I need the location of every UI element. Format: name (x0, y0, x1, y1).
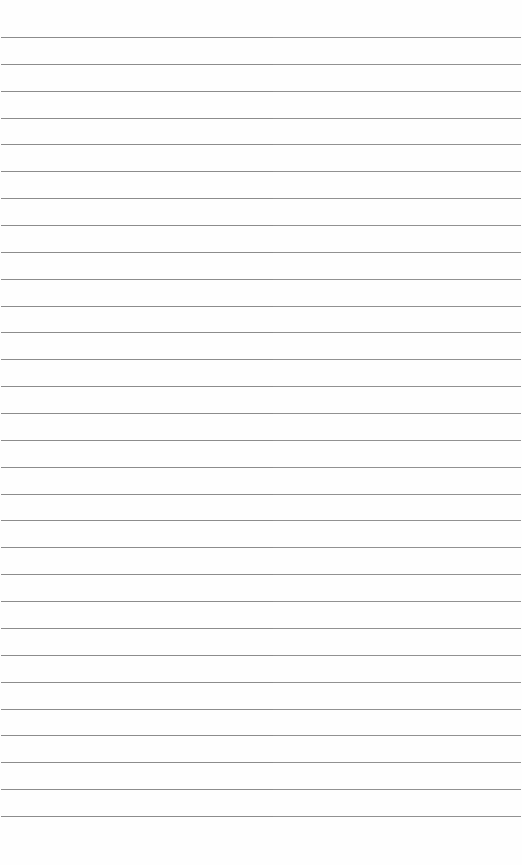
ruled-line-left-segment (1, 655, 273, 656)
ruled-line (1, 520, 521, 521)
ruled-line (1, 37, 521, 38)
ruled-line-left-segment (1, 359, 273, 360)
ruled-line (1, 628, 521, 629)
ruled-line (1, 735, 521, 736)
ruled-line (1, 91, 521, 92)
ruled-line-left-segment (1, 118, 273, 119)
ruled-line (1, 709, 521, 710)
ruled-line-left-segment (1, 252, 273, 253)
ruled-line-left-segment (1, 413, 273, 414)
ruled-line (1, 655, 521, 656)
ruled-line (1, 574, 521, 575)
ruled-line-left-segment (1, 762, 273, 763)
ruled-line-left-segment (1, 386, 273, 387)
ruled-line (1, 547, 521, 548)
ruled-paper-page (0, 0, 522, 865)
ruled-line-right-segment (273, 440, 521, 441)
ruled-line (1, 306, 521, 307)
ruled-line-right-segment (273, 386, 521, 387)
ruled-line-left-segment (1, 547, 273, 548)
ruled-line-right-segment (273, 64, 521, 65)
ruled-line-right-segment (273, 37, 521, 38)
ruled-line (1, 762, 521, 763)
ruled-line-right-segment (273, 144, 521, 145)
ruled-line-left-segment (1, 735, 273, 736)
ruled-line-left-segment (1, 332, 273, 333)
ruled-line (1, 225, 521, 226)
ruled-line (1, 440, 521, 441)
ruled-line-right-segment (273, 762, 521, 763)
ruled-line-right-segment (273, 332, 521, 333)
ruled-line (1, 816, 521, 817)
ruled-line (1, 467, 521, 468)
ruled-line (1, 332, 521, 333)
ruled-line (1, 279, 521, 280)
ruled-line-left-segment (1, 816, 273, 817)
ruled-line-right-segment (273, 467, 521, 468)
ruled-line-right-segment (273, 816, 521, 817)
ruled-line-right-segment (273, 735, 521, 736)
ruled-line-right-segment (273, 413, 521, 414)
ruled-line-right-segment (273, 171, 521, 172)
ruled-line-left-segment (1, 709, 273, 710)
ruled-line-left-segment (1, 225, 273, 226)
ruled-line-left-segment (1, 601, 273, 602)
ruled-line (1, 144, 521, 145)
ruled-line (1, 789, 521, 790)
ruled-line-left-segment (1, 37, 273, 38)
ruled-line-left-segment (1, 440, 273, 441)
ruled-line-right-segment (273, 789, 521, 790)
ruled-line (1, 413, 521, 414)
ruled-line-right-segment (273, 682, 521, 683)
ruled-line-right-segment (273, 225, 521, 226)
ruled-line-right-segment (273, 494, 521, 495)
ruled-line-right-segment (273, 520, 521, 521)
ruled-line (1, 386, 521, 387)
ruled-line (1, 601, 521, 602)
ruled-line-left-segment (1, 306, 273, 307)
ruled-line (1, 494, 521, 495)
ruled-line-left-segment (1, 628, 273, 629)
ruled-line-left-segment (1, 520, 273, 521)
ruled-line-left-segment (1, 467, 273, 468)
ruled-line (1, 171, 521, 172)
ruled-line-right-segment (273, 118, 521, 119)
ruled-line-left-segment (1, 171, 273, 172)
ruled-line-left-segment (1, 144, 273, 145)
ruled-line-left-segment (1, 198, 273, 199)
ruled-line-right-segment (273, 91, 521, 92)
ruled-line-right-segment (273, 252, 521, 253)
ruled-line-left-segment (1, 789, 273, 790)
ruled-line (1, 682, 521, 683)
ruled-line-right-segment (273, 574, 521, 575)
ruled-line-right-segment (273, 547, 521, 548)
ruled-line-right-segment (273, 279, 521, 280)
ruled-line (1, 252, 521, 253)
ruled-line (1, 64, 521, 65)
ruled-line (1, 118, 521, 119)
ruled-line-right-segment (273, 628, 521, 629)
ruled-line-right-segment (273, 306, 521, 307)
ruled-line-right-segment (273, 359, 521, 360)
ruled-line-right-segment (273, 198, 521, 199)
ruled-line (1, 359, 521, 360)
ruled-line (1, 198, 521, 199)
ruled-line-left-segment (1, 494, 273, 495)
ruled-line-left-segment (1, 682, 273, 683)
ruled-line-left-segment (1, 279, 273, 280)
ruled-line-right-segment (273, 655, 521, 656)
ruled-line-right-segment (273, 709, 521, 710)
ruled-line-right-segment (273, 601, 521, 602)
ruled-line-left-segment (1, 574, 273, 575)
ruled-line-left-segment (1, 91, 273, 92)
ruled-line-left-segment (1, 64, 273, 65)
